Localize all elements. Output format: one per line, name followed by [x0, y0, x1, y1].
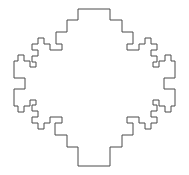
fractal-outline-path [14, 9, 175, 166]
fractal-svg: Quadratic Koch fractal closed curve Blac… [0, 0, 189, 175]
fractal-figure-canvas: Quadratic Koch fractal closed curve Blac… [0, 0, 189, 175]
